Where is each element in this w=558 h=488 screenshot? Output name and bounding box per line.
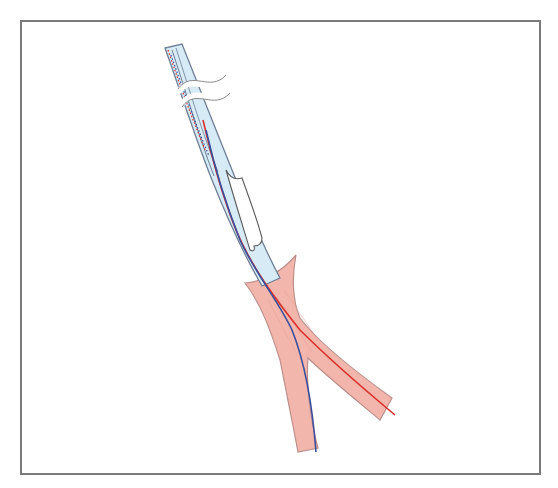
vessel-bifurcation xyxy=(245,255,392,452)
catheter-illustration xyxy=(0,0,558,488)
